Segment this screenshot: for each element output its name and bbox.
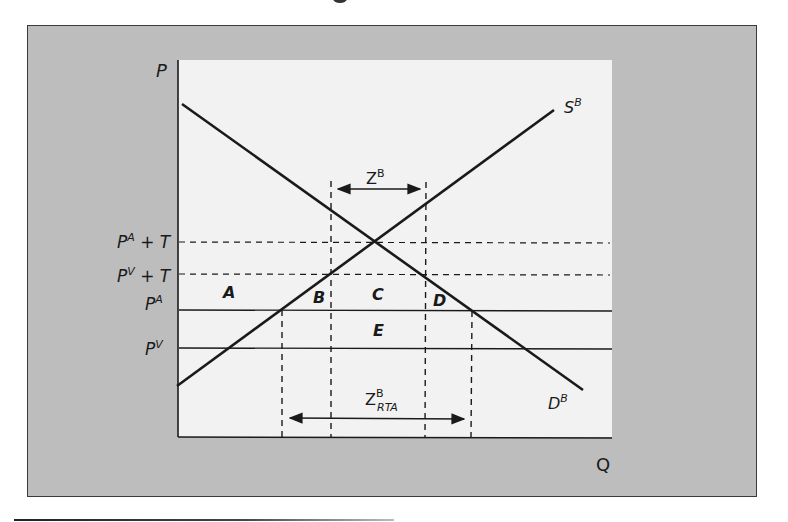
- pv-label: PV: [145, 338, 164, 359]
- supply-demand-diagram: P Q SB DB PA + T PV + T PA PV A B C D E …: [0, 0, 788, 522]
- x-axis-label: Q: [596, 454, 610, 475]
- pa-label: PA: [145, 293, 163, 314]
- region-e-label: E: [373, 321, 384, 340]
- pv-plus-t-label: PV + T: [117, 265, 172, 286]
- x-axis: [178, 437, 612, 438]
- region-c-label: C: [372, 285, 384, 304]
- y-axis-label: P: [156, 60, 167, 81]
- region-d-label: D: [433, 291, 446, 310]
- region-a-label: A: [221, 283, 235, 302]
- pa-plus-t-label: PA + T: [117, 231, 172, 252]
- price-line-pv: [179, 348, 612, 349]
- price-line-pa: [179, 310, 612, 311]
- region-b-label: B: [313, 288, 325, 307]
